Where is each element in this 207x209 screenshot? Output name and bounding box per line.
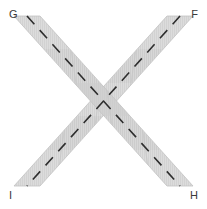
- geometry-figure: G F I H: [0, 0, 207, 209]
- label-f: F: [191, 9, 198, 20]
- label-i: I: [9, 190, 12, 201]
- label-h: H: [190, 190, 198, 201]
- band-g-h-segments: [44, 0, 160, 209]
- label-g: G: [9, 9, 18, 20]
- x-shape-svg: [0, 0, 207, 209]
